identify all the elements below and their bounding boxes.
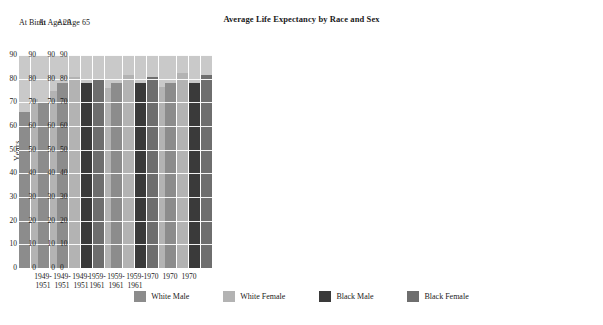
y-axis-tick-label: 50 xyxy=(60,146,68,154)
y-axis-tick-label: 40 xyxy=(48,170,56,178)
y-axis-tick-label: 80 xyxy=(10,75,18,83)
y-axis-tick-label: 20 xyxy=(60,217,68,225)
chart-root: Average Life Expectancy by Race and Sex … xyxy=(0,0,603,325)
x-axis-group-label: 1970 xyxy=(165,272,213,281)
legend-label: White Female xyxy=(240,292,285,301)
y-axis-tick-label: 90 xyxy=(10,51,18,59)
bar-slot xyxy=(189,55,201,268)
y-axis-tick-label: 40 xyxy=(60,170,68,178)
legend-item[interactable]: White Male xyxy=(134,291,189,302)
bar-slot xyxy=(111,55,123,268)
y-axis-ticks: 0102030405060708090 xyxy=(38,31,57,281)
x-axis-group-label: 1959-1961 xyxy=(111,272,159,290)
legend-item[interactable]: Black Male xyxy=(319,291,373,302)
y-axis-tick-label: 90 xyxy=(48,51,56,59)
y-axis-tick-label: 40 xyxy=(29,170,37,178)
y-axis-tick-label: 80 xyxy=(29,75,37,83)
y-axis-tick-label: 60 xyxy=(60,122,68,130)
chart-legend: White MaleWhite FemaleBlack MaleBlack Fe… xyxy=(0,291,603,302)
legend-label: Black Female xyxy=(424,292,468,301)
y-axis-tick-label: 30 xyxy=(29,193,37,201)
y-axis-tick-label: 10 xyxy=(60,241,68,249)
legend-color-swatch xyxy=(319,291,331,302)
y-axis-tick-label: 80 xyxy=(60,75,68,83)
bar-slot xyxy=(165,55,177,268)
bar[interactable] xyxy=(135,83,146,268)
y-axis-tick-label: 70 xyxy=(29,99,37,107)
y-axis-tick-label: 20 xyxy=(29,217,37,225)
x-axis-group-label-line: 1951 xyxy=(57,281,105,290)
bar[interactable] xyxy=(201,75,212,268)
y-axis-ticks: 0102030405060708090 xyxy=(0,31,19,281)
y-axis-tick-label: 60 xyxy=(29,122,37,130)
y-axis-tick-label: 70 xyxy=(60,99,68,107)
bar[interactable] xyxy=(93,80,104,268)
x-axis-group-label-line: 1970 xyxy=(165,272,213,281)
bar[interactable] xyxy=(123,75,134,268)
chart-title: Average Life Expectancy by Race and Sex xyxy=(0,14,603,24)
y-axis-tick-label: 30 xyxy=(10,193,18,201)
bar[interactable] xyxy=(189,83,200,268)
x-axis-group-label-line: 1961 xyxy=(111,281,159,290)
y-axis-tick-label: 20 xyxy=(48,217,56,225)
bar-slot xyxy=(177,55,189,268)
x-axis-group-label-line: 1959- xyxy=(111,272,159,281)
bar-slot xyxy=(201,55,213,268)
y-axis-ticks: 0102030405060708090 xyxy=(19,31,38,281)
bar[interactable] xyxy=(177,73,188,268)
legend-label: White Male xyxy=(151,292,189,301)
y-axis-tick-label: 0 xyxy=(60,264,64,272)
legend-label: Black Male xyxy=(336,292,373,301)
panel-strip: 0102030405060708090At Birth1949-19511959… xyxy=(0,31,603,281)
bar-slot xyxy=(123,55,135,268)
y-axis-tick-label: 60 xyxy=(10,122,18,130)
y-axis-tick-label: 10 xyxy=(10,241,18,249)
legend-color-swatch xyxy=(407,291,419,302)
bar-slot xyxy=(93,55,105,268)
legend-item[interactable]: White Female xyxy=(223,291,285,302)
y-axis-tick-label: 90 xyxy=(60,51,68,59)
legend-color-swatch xyxy=(134,291,146,302)
panel-groups: 1949-19511959-19611970 xyxy=(57,55,213,268)
y-axis-tick-label: 0 xyxy=(51,264,55,272)
bar-slot xyxy=(135,55,147,268)
y-axis-tick-label: 70 xyxy=(10,99,18,107)
y-axis-tick-label: 0 xyxy=(13,264,17,272)
legend-color-swatch xyxy=(223,291,235,302)
y-axis-tick-label: 10 xyxy=(48,241,56,249)
bar[interactable] xyxy=(81,83,92,268)
y-axis-ticks: 0102030405060708090 xyxy=(57,31,76,281)
bar-group[interactable]: 1970 xyxy=(165,55,213,268)
y-axis-tick-label: 40 xyxy=(10,170,18,178)
y-axis-tick-label: 50 xyxy=(48,146,56,154)
bar[interactable] xyxy=(165,83,176,268)
y-axis-tick-label: 0 xyxy=(32,264,36,272)
bar[interactable] xyxy=(147,77,158,268)
y-axis-tick-label: 30 xyxy=(48,193,56,201)
y-axis-tick-label: 80 xyxy=(48,75,56,83)
y-axis-tick-label: 90 xyxy=(29,51,37,59)
y-axis-tick-label: 60 xyxy=(48,122,56,130)
legend-item[interactable]: Black Female xyxy=(407,291,468,302)
y-axis-tick-label: 50 xyxy=(10,146,18,154)
bar-slot xyxy=(147,55,159,268)
y-axis-tick-label: 50 xyxy=(29,146,37,154)
bar[interactable] xyxy=(111,83,122,268)
y-axis-tick-label: 10 xyxy=(29,241,37,249)
bar-group[interactable]: 1959-1961 xyxy=(111,55,159,268)
y-axis-tick-label: 70 xyxy=(48,99,56,107)
y-axis-tick-label: 20 xyxy=(10,217,18,225)
y-axis-tick-label: 30 xyxy=(60,193,68,201)
bar-slot xyxy=(81,55,93,268)
